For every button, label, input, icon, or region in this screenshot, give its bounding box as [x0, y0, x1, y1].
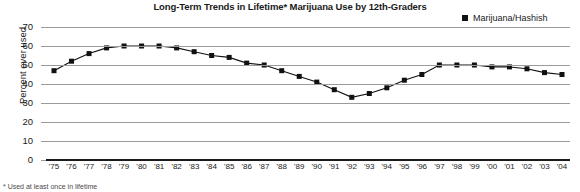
gridline: [46, 141, 570, 142]
x-axis-tick-label: '78: [98, 163, 116, 171]
x-axis-tick-label: '95: [395, 163, 413, 171]
y-axis-tick-mark: [41, 84, 46, 85]
chart-container: Long-Term Trends in Lifetime* Marijuana …: [0, 0, 580, 192]
x-axis-tick-label: '97: [430, 163, 448, 171]
x-axis-tick-label: '99: [465, 163, 483, 171]
x-axis-tick-label: '81: [150, 163, 168, 171]
x-axis-tick-label: '02: [518, 163, 536, 171]
x-axis-tick-label: '83: [185, 163, 203, 171]
y-axis-tick-label: 40: [0, 79, 33, 89]
chart-title: Long-Term Trends in Lifetime* Marijuana …: [0, 1, 580, 12]
x-axis-tick-label: '03: [535, 163, 553, 171]
x-axis-tick-label: '77: [80, 163, 98, 171]
axis-baseline: [46, 159, 570, 161]
y-axis-tick-label: 50: [0, 60, 33, 70]
x-axis-tick-label: '76: [63, 163, 81, 171]
y-axis-tick-label: 10: [0, 136, 33, 146]
x-axis-tick-label: '75: [45, 163, 63, 171]
x-axis-tick-label: '88: [273, 163, 291, 171]
y-axis-tick-mark: [41, 65, 46, 66]
x-axis-tick-label: '82: [168, 163, 186, 171]
gridline: [46, 122, 570, 123]
x-axis-tick-label: '91: [325, 163, 343, 171]
x-axis-tick-label: '87: [255, 163, 273, 171]
y-axis-tick-mark: [41, 103, 46, 104]
y-axis-tick-label: 60: [0, 41, 33, 51]
x-axis-tick-label: '92: [343, 163, 361, 171]
y-axis-tick-mark: [41, 160, 46, 161]
chart-footnote: * Used at least once in lifetime: [3, 183, 97, 192]
x-axis-tick-label: '84: [203, 163, 221, 171]
y-axis-tick-mark: [41, 46, 46, 47]
x-axis-tick-label: '93: [360, 163, 378, 171]
y-axis-tick-label: 20: [0, 117, 33, 127]
gridline: [46, 65, 570, 66]
x-axis-tick-label: '98: [448, 163, 466, 171]
x-axis-tick-label: '96: [413, 163, 431, 171]
y-axis-tick-label: 70: [0, 22, 33, 32]
legend-label-marijuana-hashish: Marijuana/Hashish: [473, 13, 548, 23]
x-axis-tick-label: '79: [115, 163, 133, 171]
x-axis-tick-label: '04: [553, 163, 571, 171]
gridline: [46, 84, 570, 85]
y-axis-tick-mark: [41, 27, 46, 28]
y-axis-tick-label: 0: [0, 155, 33, 165]
y-axis-tick-label: 30: [0, 98, 33, 108]
plot-area: 706050403020100'75'76'77'78'79'80'81'82'…: [46, 27, 570, 160]
x-axis-tick-label: '01: [500, 163, 518, 171]
x-axis-tick-label: '90: [308, 163, 326, 171]
gridline: [46, 103, 570, 104]
gridline: [46, 27, 570, 28]
x-axis-tick-label: '89: [290, 163, 308, 171]
y-axis-tick-mark: [41, 141, 46, 142]
square-swatch-icon: [462, 15, 468, 21]
gridline: [46, 46, 570, 47]
x-axis-tick-label: '94: [378, 163, 396, 171]
x-axis-tick-label: '80: [133, 163, 151, 171]
chart-legend: Marijuana/Hashish: [462, 13, 548, 23]
x-axis-tick-label: '86: [238, 163, 256, 171]
x-axis-tick-label: '85: [220, 163, 238, 171]
y-axis-tick-mark: [41, 122, 46, 123]
x-axis-tick-label: '00: [483, 163, 501, 171]
